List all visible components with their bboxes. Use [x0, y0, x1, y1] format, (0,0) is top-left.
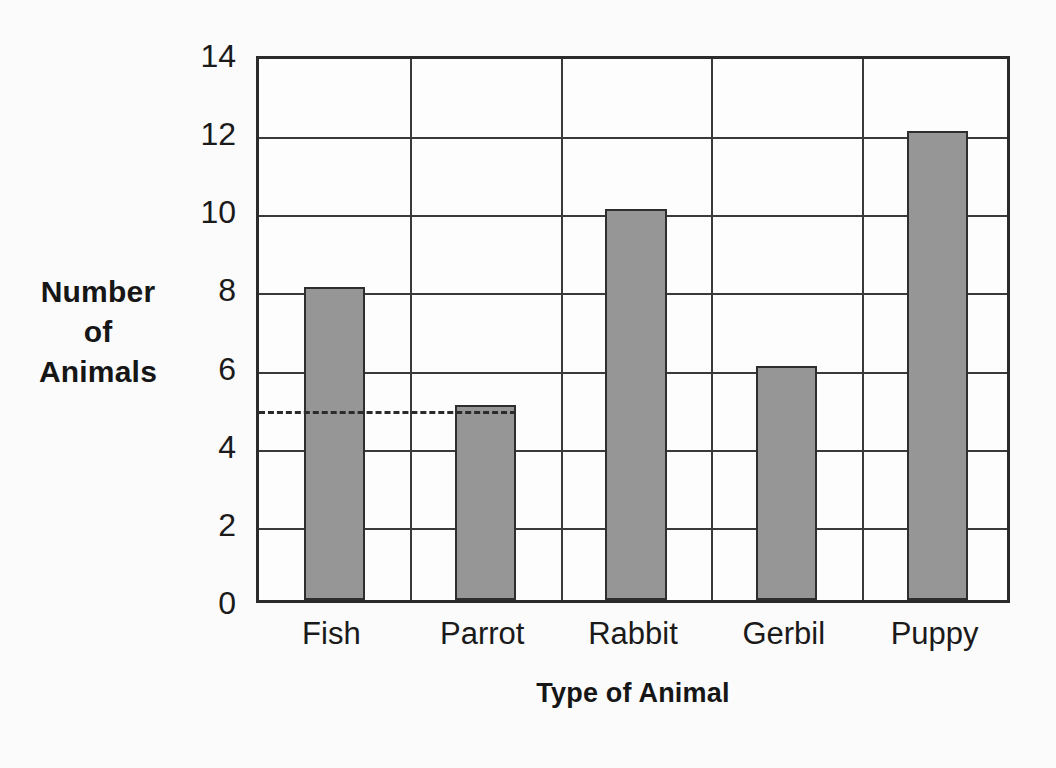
- x-category-label-rabbit: Rabbit: [558, 617, 709, 651]
- bar-chart: Number of Animals 14 12 10 8 6 4 2 0: [0, 0, 1056, 768]
- plot-inner: [259, 59, 1007, 600]
- x-category-label-gerbil: Gerbil: [708, 617, 859, 651]
- bar-fish: [304, 287, 365, 600]
- bar-parrot: [455, 405, 516, 600]
- x-category-label-fish: Fish: [256, 617, 407, 651]
- x-category-label-parrot: Parrot: [407, 617, 558, 651]
- y-axis-title-line-3: Animals: [8, 352, 188, 392]
- y-tick-label-0: 0: [176, 587, 236, 619]
- gridline-x-4: [862, 59, 864, 600]
- y-tick-label-14: 14: [176, 40, 236, 72]
- y-tick-label-12: 12: [176, 118, 236, 150]
- gridline-x-1: [410, 59, 412, 600]
- y-axis-title-line-2: of: [8, 312, 188, 352]
- gridline-x-2: [561, 59, 563, 600]
- y-tick-label-8: 8: [176, 274, 236, 306]
- y-tick-label-10: 10: [176, 196, 236, 228]
- y-tick-label-4: 4: [176, 431, 236, 463]
- y-axis-title-line-1: Number: [8, 272, 188, 312]
- y-axis-title: Number of Animals: [8, 272, 188, 392]
- plot-area: [256, 56, 1010, 603]
- y-tick-label-2: 2: [176, 509, 236, 541]
- bar-gerbil: [756, 366, 817, 600]
- reference-line-dashed: [259, 411, 516, 414]
- bar-puppy: [907, 131, 968, 600]
- y-tick-label-6: 6: [176, 353, 236, 385]
- x-axis-title: Type of Animal: [256, 678, 1010, 709]
- gridline-x-3: [711, 59, 713, 600]
- gridline-y-12: [259, 137, 1007, 139]
- bar-rabbit: [605, 209, 666, 600]
- x-category-label-puppy: Puppy: [859, 617, 1010, 651]
